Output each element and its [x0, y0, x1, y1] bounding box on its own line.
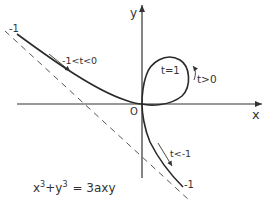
- origin-label: O: [130, 106, 138, 117]
- folium-diagram: -1 -1<t<0 t=1 t>0 t<-1 -1 x y O x3+y3= 3…: [0, 0, 269, 208]
- arrow-loop: [193, 66, 195, 80]
- label-lower-end: -1: [184, 179, 194, 190]
- label-lower-range: t<-1: [170, 148, 191, 159]
- label-loop-point: t=1: [161, 65, 180, 76]
- y-axis-label: y: [130, 6, 137, 20]
- equation-label: x3+y3= 3axy: [33, 180, 116, 195]
- label-left-end: -1: [9, 23, 19, 34]
- label-loop-range: t>0: [197, 73, 217, 85]
- curve-lower-branch: [142, 104, 183, 187]
- label-left-range: -1<t<0: [62, 55, 97, 66]
- curve-left-branch: [17, 34, 142, 104]
- x-axis-label: x: [252, 107, 260, 122]
